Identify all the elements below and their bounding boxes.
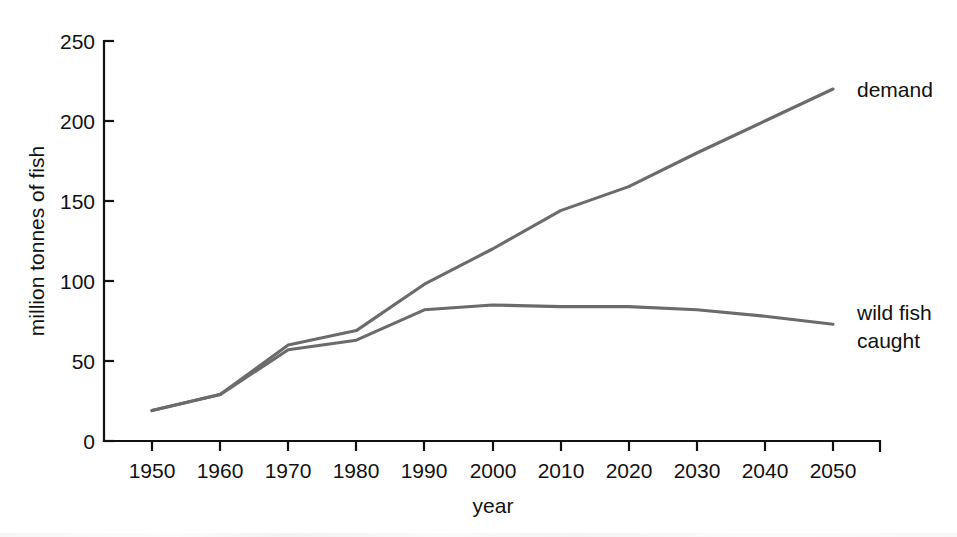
x-tick-label: 1950 [129, 459, 176, 482]
x-tick-label: 1980 [333, 459, 380, 482]
x-tick-label: 1990 [401, 459, 448, 482]
series-label-wild-fish-line1: wild fish [856, 301, 932, 324]
series-line-wild-fish-caught [152, 305, 833, 411]
x-tick-label: 2040 [742, 459, 789, 482]
x-axis-title: year [473, 494, 514, 517]
x-tick-label: 2020 [606, 459, 653, 482]
y-tick-label: 150 [60, 190, 95, 213]
fish-demand-line-chart: 250 200 150 100 50 0 1950 1960 1970 1 [0, 0, 957, 537]
x-tick-label: 2030 [674, 459, 721, 482]
series-label-wild-fish-line2: caught [857, 329, 920, 352]
x-tick-label: 2010 [538, 459, 585, 482]
chart-canvas: 250 200 150 100 50 0 1950 1960 1970 1 [0, 0, 957, 537]
x-tick-labels: 1950 1960 1970 1980 1990 2000 2010 2020 … [129, 459, 857, 482]
series-label-demand: demand [857, 78, 933, 101]
y-tick-label: 50 [72, 350, 95, 373]
x-tick-label: 2000 [470, 459, 517, 482]
x-tick-label: 1970 [265, 459, 312, 482]
y-tick-label: 0 [83, 430, 95, 453]
y-tick-marks [104, 41, 114, 441]
y-tick-label: 100 [60, 270, 95, 293]
y-axis-line [104, 41, 112, 441]
y-tick-labels: 250 200 150 100 50 0 [60, 30, 95, 453]
x-tick-label: 2050 [810, 459, 857, 482]
series-line-demand [152, 89, 833, 411]
x-tick-label: 1960 [197, 459, 244, 482]
y-axis-title: million tonnes of fish [25, 146, 48, 336]
y-tick-label: 200 [60, 110, 95, 133]
y-tick-label: 250 [60, 30, 95, 53]
scan-edge-artifact [0, 533, 957, 537]
x-tick-marks [152, 441, 833, 451]
